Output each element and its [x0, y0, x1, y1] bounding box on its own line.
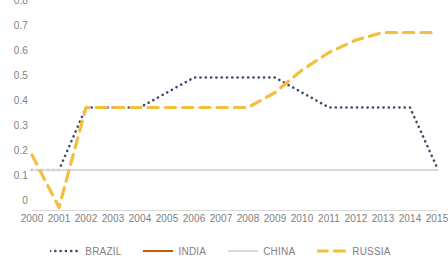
legend-item-india[interactable]: INDIA: [143, 246, 206, 257]
x-axis-tick-label: 2006: [183, 213, 206, 224]
y-axis-tick-label: 0.3: [14, 120, 28, 131]
chart-legend: BRAZILINDIACHINARUSSIA: [0, 240, 441, 262]
y-axis-tick-label: 0.7: [14, 20, 28, 31]
y-axis-tick-label: 0.4: [14, 95, 28, 106]
x-axis-tick-label: 2011: [318, 213, 340, 224]
y-axis-tick-label: 0.1: [14, 170, 28, 181]
x-axis-tick-label: 2014: [399, 213, 422, 224]
x-axis-tick-label: 2015: [426, 213, 448, 224]
series-line-russia: [32, 33, 437, 208]
legend-label: INDIA: [178, 246, 206, 257]
x-axis-line: [32, 210, 437, 211]
y-axis: 00.10.20.30.40.50.60.70.8: [0, 0, 28, 200]
x-axis-tick-label: 2010: [291, 213, 314, 224]
y-axis-tick-label: 0: [22, 195, 28, 206]
x-axis-tick-label: 2005: [156, 213, 179, 224]
legend-swatch-russia: [317, 246, 347, 256]
x-axis-tick-label: 2003: [102, 213, 125, 224]
x-axis-tick-label: 2012: [345, 213, 368, 224]
y-axis-tick-label: 0.2: [14, 145, 28, 156]
series-layer: [32, 10, 437, 210]
x-axis-tick-label: 2002: [75, 213, 98, 224]
legend-swatch-china: [228, 246, 258, 256]
y-axis-tick-label: 0.8: [14, 0, 28, 6]
plot-area: [32, 10, 437, 210]
x-axis-tick-label: 2004: [129, 213, 152, 224]
legend-label: CHINA: [263, 246, 295, 257]
legend-item-russia[interactable]: RUSSIA: [317, 246, 390, 257]
y-axis-tick-label: 0.6: [14, 45, 28, 56]
legend-label: RUSSIA: [352, 246, 390, 257]
legend-swatch-brazil: [50, 246, 80, 256]
x-axis-tick-label: 2013: [372, 213, 395, 224]
x-axis-tick-label: 2007: [210, 213, 233, 224]
legend-swatch-india: [143, 246, 173, 256]
x-axis-tick-label: 2000: [21, 213, 44, 224]
x-axis-tick-label: 2001: [48, 213, 71, 224]
legend-item-china[interactable]: CHINA: [228, 246, 295, 257]
x-axis-tick-label: 2008: [237, 213, 260, 224]
y-axis-tick-label: 0.5: [14, 70, 28, 81]
series-line-brazil: [32, 78, 437, 171]
legend-label: BRAZIL: [85, 246, 121, 257]
legend-item-brazil[interactable]: BRAZIL: [50, 246, 121, 257]
x-axis: 2000200120022003200420052006200720082009…: [32, 213, 437, 233]
x-axis-tick-label: 2009: [264, 213, 287, 224]
